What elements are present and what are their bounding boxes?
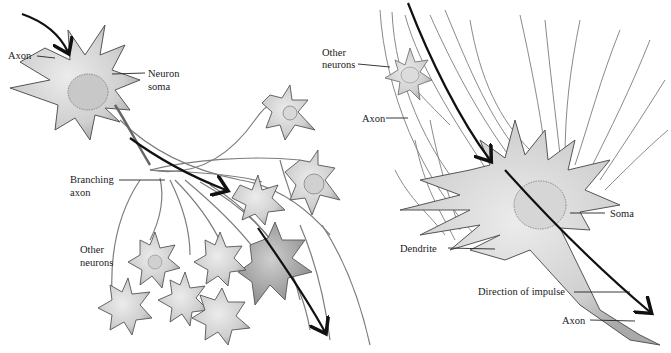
- label-other-neurons-left-line1: Other: [80, 244, 104, 255]
- label-soma: Soma: [610, 208, 634, 219]
- label-neuron-soma-line2: soma: [148, 81, 170, 92]
- label-neuron-soma-line1: Neuron: [148, 68, 180, 79]
- left-panel: [10, 14, 370, 345]
- label-branching-axon-line1: Branching: [70, 174, 114, 185]
- label-axon-left: Axon: [8, 50, 31, 61]
- label-other-neurons-right-line2: neurons: [322, 59, 355, 70]
- label-axon-right-bottom: Axon: [562, 315, 585, 326]
- other-neuron-small: [385, 48, 450, 125]
- label-branching-axon-line2: axon: [70, 187, 90, 198]
- main-neuron: [10, 25, 150, 165]
- large-neuron-soma: [400, 120, 660, 345]
- label-other-neurons-left-line2: neurons: [80, 257, 113, 268]
- label-direction-of-impulse: Direction of impulse: [478, 286, 565, 297]
- label-dendrite: Dendrite: [400, 243, 437, 254]
- other-neurons-cluster: [98, 85, 340, 345]
- label-axon-right-top: Axon: [362, 113, 385, 124]
- label-other-neurons-right-line1: Other: [322, 47, 346, 58]
